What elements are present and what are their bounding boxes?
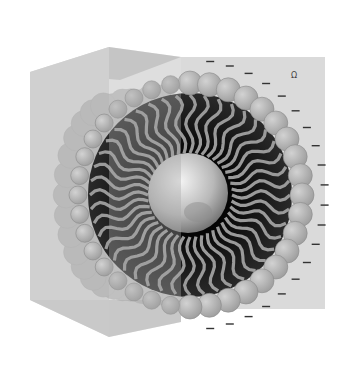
box-front-wall [109,47,181,337]
negative-charge [278,293,286,294]
negative-charge [206,328,214,329]
head-group [84,242,102,260]
negative-charge [245,316,253,317]
head-group [71,205,89,223]
head-group [71,167,89,185]
negative-charge [303,262,311,263]
negative-charge [262,306,270,307]
micelle-illustration: Ω [0,0,347,379]
negative-charge [321,184,329,185]
negative-charge [245,73,253,74]
negative-charge [318,224,326,225]
head-group [178,295,202,319]
head-group [84,130,102,148]
negative-charge [292,279,300,280]
negative-charge [262,83,270,84]
negative-charge [321,204,329,205]
negative-charge [278,95,286,96]
negative-charge [226,65,234,66]
head-group [69,186,87,204]
negative-charge [292,110,300,111]
micelle-diagram: Ω [0,0,347,379]
negative-charge [312,244,320,245]
head-group [76,148,94,166]
negative-charge [318,164,326,165]
negative-charge [312,145,320,146]
head-group [76,224,94,242]
negative-charge [226,323,234,324]
corner-mark: Ω [291,71,297,80]
negative-charge [206,61,214,62]
negative-charge [303,127,311,128]
